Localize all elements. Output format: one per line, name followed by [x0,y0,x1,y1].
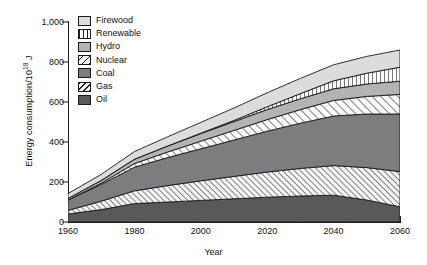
legend-item-nuclear[interactable]: Nuclear [78,54,141,67]
legend-swatch-hydro [78,42,91,52]
y-tick-label: 400 [18,137,64,147]
y-tick-label: 600 [18,97,64,107]
x-tick-label: 2060 [390,226,410,236]
y-tick-label: 800 [18,57,64,67]
legend-swatch-renewable [78,29,91,39]
legend-swatch-firewood [78,16,91,26]
x-axis-line [68,222,401,223]
x-tick-label: 1960 [58,226,78,236]
legend: FirewoodRenewableHydroNuclearCoalGasOil [78,14,141,106]
legend-label: Coal [96,69,115,78]
legend-swatch-nuclear [78,55,91,65]
x-tick-label: 2040 [324,226,344,236]
legend-label: Nuclear [96,56,127,65]
legend-swatch-oil [78,95,91,105]
x-tick-label: 2000 [191,226,211,236]
legend-label: Oil [96,95,107,104]
y-tick-label: 1,000 [18,17,64,27]
legend-label: Renewable [96,29,141,38]
legend-label: Gas [96,82,113,91]
legend-item-coal[interactable]: Coal [78,67,141,80]
y-axis-tick-labels: 02004006008001,000 [14,0,64,265]
legend-swatch-gas [78,82,91,92]
legend-item-firewood[interactable]: Firewood [78,14,141,27]
y-tick-label: 200 [18,177,64,187]
legend-label: Hydro [96,42,120,51]
legend-swatch-coal [78,68,91,78]
chart-figure: Energy consumption/1018 J 02004006008001… [0,0,427,265]
legend-label: Firewood [96,16,133,25]
x-tick-label: 2020 [257,226,277,236]
legend-item-oil[interactable]: Oil [78,93,141,106]
legend-item-hydro[interactable]: Hydro [78,40,141,53]
x-axis-title: Year [0,247,427,257]
legend-item-gas[interactable]: Gas [78,80,141,93]
x-tick-label: 1980 [124,226,144,236]
legend-item-renewable[interactable]: Renewable [78,27,141,40]
